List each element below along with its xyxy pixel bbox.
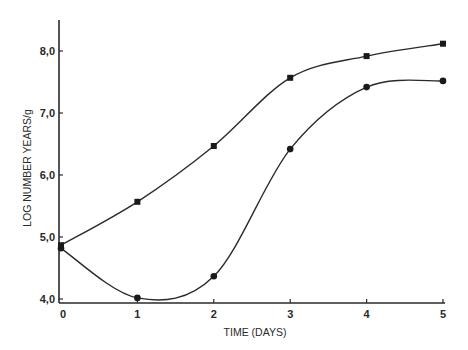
- markers: [58, 41, 447, 302]
- x-tick-label: 3: [287, 308, 293, 320]
- y-axis-title: LOG NUMBER YEARS/g: [21, 109, 33, 227]
- circle-marker: [440, 78, 447, 85]
- square-marker: [134, 199, 140, 205]
- x-tick-label: 1: [134, 308, 140, 320]
- y-tick-label: 6,0: [40, 169, 55, 181]
- y-tick-label: 4,0: [40, 293, 55, 305]
- x-tick-label: 5: [440, 308, 446, 320]
- circle-marker: [58, 245, 65, 252]
- circle-marker: [134, 295, 141, 302]
- square-marker: [440, 41, 446, 47]
- x-tick-label: 2: [211, 308, 217, 320]
- square-marker: [211, 143, 217, 149]
- circle-marker: [211, 273, 218, 280]
- x-tick-label: 4: [364, 308, 371, 320]
- square-marker: [364, 53, 370, 59]
- circle-marker: [287, 146, 294, 153]
- square-marker: [287, 75, 293, 81]
- axes: 4,05,06,07,08,0012345: [40, 20, 446, 320]
- chart: 4,05,06,07,08,0012345 TIME (DAYS) LOG NU…: [0, 0, 468, 350]
- y-tick-label: 5,0: [40, 231, 55, 243]
- x-axis-title: TIME (DAYS): [224, 326, 287, 338]
- curve-circles: [61, 80, 443, 300]
- curves: [61, 44, 443, 300]
- y-tick-label: 7,0: [40, 107, 55, 119]
- circle-marker: [363, 84, 370, 91]
- x-tick-label: 0: [60, 308, 66, 320]
- y-tick-label: 8,0: [40, 45, 55, 57]
